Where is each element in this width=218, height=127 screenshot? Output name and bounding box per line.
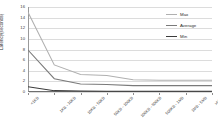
legend-label: Min [180,34,187,39]
x-axis-tick-label: 50KB - 100KB [113,96,134,117]
legend-item: Min [166,31,215,42]
legend-label: Max [180,12,188,17]
legend-swatch [166,14,177,15]
x-axis-tick-label: 500KB - 1MB [165,96,185,116]
x-axis-ticks: <1KB1KB - 10KB10KB - 50KB50KB - 100KB100… [28,93,212,127]
legend-swatch [166,36,177,37]
x-axis-tick-mark [133,93,134,95]
latency-line-chart: Latency(seconds) 1614121086420 <1KB1KB -… [0,0,218,127]
x-axis-tick-mark [159,93,160,95]
y-axis-tick-label: 12 [20,26,25,30]
x-axis-tick-mark [28,93,29,95]
y-axis-tick-label: 2 [23,79,25,83]
legend-item: Max [166,9,215,20]
x-axis-tick-mark [54,93,55,95]
chart-legend: MaxAverageMin [166,9,215,42]
y-axis-tick-label: 4 [23,69,25,73]
legend-swatch [166,25,177,26]
y-axis-tick-label: 14 [20,16,25,20]
x-axis-tick-label: <1KB [30,96,40,106]
legend-item: Average [166,20,215,31]
x-axis-tick-label: 10KB - 50KB [86,96,105,115]
x-axis-tick-mark [212,93,213,95]
y-axis-ticks: 1614121086420 [0,0,27,99]
x-axis-tick-label: 1MB - 5MB [191,96,208,113]
x-axis-tick-label: 100KB - 500KB [140,96,163,119]
legend-label: Average [180,23,196,28]
x-axis-tick-label: 1KB - 10KB [59,96,77,114]
x-axis-tick-mark [107,93,108,95]
y-axis-tick-label: 8 [23,47,25,51]
x-axis-tick-mark [81,93,82,95]
x-axis-tick-label: >5MB [214,96,218,107]
y-axis-tick-label: 16 [20,5,25,9]
y-axis-tick-label: 10 [20,37,25,41]
series-line-min [28,87,212,92]
y-axis-tick-label: 6 [23,58,25,62]
x-axis-tick-mark [186,93,187,95]
y-axis-tick-label: 0 [23,90,25,94]
